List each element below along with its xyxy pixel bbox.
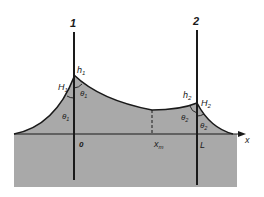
H2-label: H2 — [201, 98, 212, 109]
H1-label: H1 — [58, 82, 68, 93]
h1-label: h1 — [77, 65, 85, 76]
origin-label: 0 — [79, 140, 84, 149]
capillary-diagram: 1 2 h1 H1 θ1 θ1 h2 H2 θ2 θ2 0 xm L x — [0, 0, 264, 197]
left-outer-meniscus — [14, 77, 74, 134]
h2-label: h2 — [183, 90, 192, 101]
inner-meniscus — [74, 75, 197, 134]
plate-1-label: 1 — [70, 17, 76, 29]
L-label: L — [200, 140, 205, 150]
x-axis-label: x — [244, 135, 250, 145]
plate-2-label: 2 — [192, 15, 199, 27]
